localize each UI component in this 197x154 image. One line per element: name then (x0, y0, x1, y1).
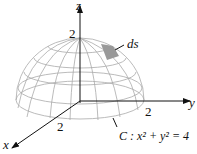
ds-patch (101, 44, 119, 60)
y-tick: 2 (145, 105, 152, 118)
y-axis-label: y (189, 96, 195, 109)
curve-label: C : x² + y² = 4 (119, 130, 189, 142)
z-tick: 2 (69, 27, 76, 40)
x-axis-label: x (3, 138, 9, 151)
z-axis-label: z (76, 0, 81, 12)
hemisphere-diagram: z y x 2 2 2 ds C : x² + y² = 4 (0, 0, 197, 154)
ds-label: ds (127, 37, 139, 50)
x-tick: 2 (57, 120, 64, 133)
